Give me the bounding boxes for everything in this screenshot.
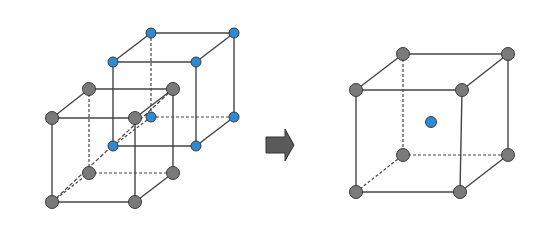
- bcc-cube-edge: [462, 54, 508, 90]
- gray-cube-edge: [135, 173, 173, 202]
- blue-atom: [229, 112, 239, 122]
- gray-atom: [83, 83, 96, 96]
- blue-atom: [191, 141, 201, 151]
- gray-atom: [46, 112, 59, 125]
- blue-atom: [146, 28, 156, 38]
- blue-atom: [108, 57, 118, 67]
- gray-atom: [350, 186, 363, 199]
- gray-atom: [167, 167, 180, 180]
- blue-atom: [229, 28, 239, 38]
- bcc-cube-hidden-edge: [356, 155, 403, 192]
- bcc-cube-edge: [460, 90, 462, 192]
- visible-edges: [52, 33, 508, 202]
- gray-atom: [397, 48, 410, 61]
- diagram-canvas: [0, 0, 548, 235]
- blue-atom: [146, 112, 156, 122]
- gray-atom: [167, 83, 180, 96]
- gray-atom: [502, 48, 515, 61]
- blue-cube-edge: [196, 33, 234, 62]
- gray-atom: [397, 149, 410, 162]
- gray-cube-hidden-edge: [52, 173, 89, 202]
- gray-cube-edge: [52, 89, 89, 118]
- gray-atom: [456, 84, 469, 97]
- gray-atom: [129, 112, 142, 125]
- gray-atom: [46, 196, 59, 209]
- gray-atom: [454, 186, 467, 199]
- gray-atom: [129, 196, 142, 209]
- arrow-shape: [266, 129, 294, 161]
- blue-atom: [191, 57, 201, 67]
- center-blue-atom: [426, 117, 437, 128]
- right-arrow-icon: [266, 129, 294, 161]
- bcc-cube-edge: [460, 155, 508, 192]
- gray-atom: [350, 84, 363, 97]
- bcc-lattice-diagram: [0, 0, 548, 235]
- gray-atom: [83, 167, 96, 180]
- blue-cube-edge: [196, 117, 234, 146]
- gray-atom: [502, 149, 515, 162]
- blue-atom: [108, 141, 118, 151]
- bcc-cube-edge: [356, 54, 403, 90]
- blue-cube-edge: [113, 33, 151, 62]
